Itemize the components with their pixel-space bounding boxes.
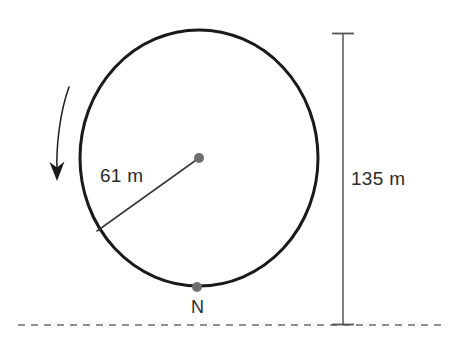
diagram-canvas: 61 m 135 m N [0, 0, 449, 351]
boarding-point-label: N [191, 297, 204, 317]
height-dimension-label: 135 m [351, 168, 405, 189]
ferris-wheel-diagram: 61 m 135 m N [0, 0, 449, 351]
rotation-direction-arrow [50, 87, 70, 181]
radius-dimension-label: 61 m [100, 165, 143, 186]
boarding-point-marker [192, 282, 202, 292]
hub-point [194, 153, 204, 163]
